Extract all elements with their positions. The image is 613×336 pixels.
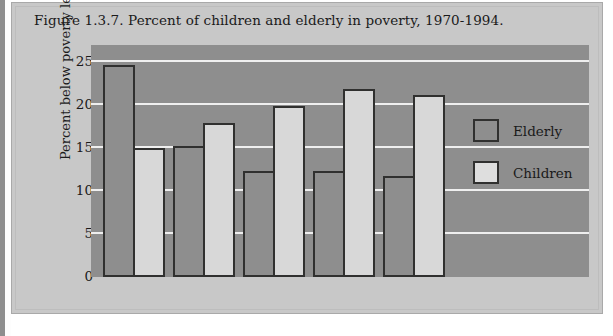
bar-elderly-1990 (243, 171, 275, 277)
bar-elderly-1994 (383, 176, 415, 277)
bar-elderly-1980 (173, 146, 205, 277)
y-tick-label: 15 (53, 141, 93, 155)
plot-area: Elderly Children (91, 45, 589, 277)
bar-elderly-1970 (103, 65, 135, 277)
legend-label-elderly: Elderly (513, 123, 562, 139)
legend-item-elderly: Elderly (473, 119, 562, 142)
gridline (91, 146, 589, 148)
legend-swatch-children-icon (473, 161, 499, 184)
y-tick-label: 0 (53, 270, 93, 284)
gridline (91, 60, 589, 62)
y-tick-label: 5 (53, 227, 93, 241)
y-tick-label: 20 (53, 98, 93, 112)
gridline (91, 103, 589, 105)
figure-panel: Figure 1.3.7. Percent of children and el… (11, 2, 603, 314)
figure-page: Figure 1.3.7. Percent of children and el… (0, 0, 613, 336)
y-axis-title: Percent below poverty level (58, 0, 73, 164)
y-tick-label: 10 (53, 184, 93, 198)
legend-swatch-elderly-icon (473, 119, 499, 142)
y-tick-label: 25 (53, 55, 93, 69)
bar-children-1980 (203, 123, 235, 277)
bar-children-1970 (133, 148, 165, 277)
figure-title: Figure 1.3.7. Percent of children and el… (34, 12, 504, 28)
bar-elderly-1993 (313, 171, 345, 277)
legend-label-children: Children (513, 165, 572, 181)
legend-item-children: Children (473, 161, 572, 184)
bar-children-1990 (273, 106, 305, 277)
bar-children-1993 (343, 89, 375, 277)
bar-children-1994 (413, 95, 445, 277)
